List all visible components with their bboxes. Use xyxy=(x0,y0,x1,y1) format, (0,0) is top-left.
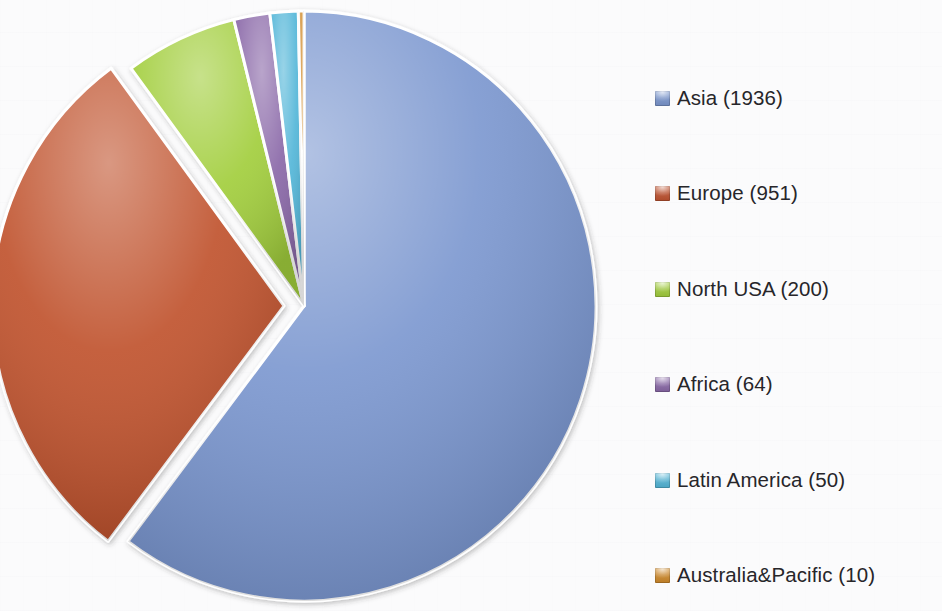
legend-item[interactable]: Latin America (50) xyxy=(655,467,845,493)
legend-swatch-icon xyxy=(655,473,670,488)
legend-swatch-icon xyxy=(655,282,670,297)
legend-item[interactable]: North USA (200) xyxy=(655,276,829,302)
legend-item[interactable]: Africa (64) xyxy=(655,371,773,397)
legend-item-label: Australia&Pacific (10) xyxy=(677,565,875,586)
pie-plot-area xyxy=(0,0,620,611)
legend-item-label: Latin America (50) xyxy=(677,470,845,491)
legend-item-label: Asia (1936) xyxy=(677,88,783,109)
legend-item[interactable]: Europe (951) xyxy=(655,180,798,206)
legend-item[interactable]: Asia (1936) xyxy=(655,85,783,111)
legend-swatch-icon xyxy=(655,568,670,583)
legend-item-label: Europe (951) xyxy=(677,183,798,204)
pie-svg xyxy=(0,0,620,611)
legend-swatch-icon xyxy=(655,377,670,392)
legend-item-label: North USA (200) xyxy=(677,279,829,300)
legend-swatch-icon xyxy=(655,186,670,201)
pie-chart: Asia (1936)Europe (951)North USA (200)Af… xyxy=(0,0,942,611)
legend-swatch-icon xyxy=(655,91,670,106)
legend-item[interactable]: Australia&Pacific (10) xyxy=(655,562,875,588)
pie-slices-group xyxy=(0,11,596,601)
legend-item-label: Africa (64) xyxy=(677,374,773,395)
chart-legend: Asia (1936)Europe (951)North USA (200)Af… xyxy=(655,0,942,611)
